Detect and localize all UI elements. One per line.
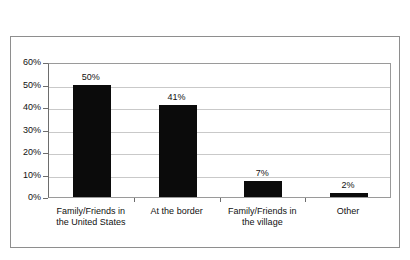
bar-value-label: 41% bbox=[147, 93, 207, 102]
x-axis-tick bbox=[220, 198, 221, 202]
x-axis-category-line: Family/Friends in bbox=[220, 206, 306, 217]
x-axis-category-line: the village bbox=[220, 217, 306, 228]
y-axis-label: 20% bbox=[11, 148, 41, 157]
y-axis-tick bbox=[43, 86, 48, 87]
y-axis-label: 0% bbox=[11, 193, 41, 202]
y-axis-label: 10% bbox=[11, 171, 41, 180]
y-axis-tick bbox=[43, 131, 48, 132]
x-axis-category-line: At the border bbox=[134, 206, 220, 217]
y-axis-label: 40% bbox=[11, 103, 41, 112]
x-axis-tick bbox=[134, 198, 135, 202]
caption-remnant bbox=[0, 0, 410, 12]
y-axis-tick bbox=[43, 198, 48, 199]
x-axis-category-label: Other bbox=[305, 206, 391, 217]
y-axis-label: 50% bbox=[11, 81, 41, 90]
x-axis-category-label: At the border bbox=[134, 206, 220, 217]
bar-value-label: 2% bbox=[318, 181, 378, 190]
x-axis-tick bbox=[305, 198, 306, 202]
bar bbox=[73, 85, 111, 198]
bar-value-label: 50% bbox=[61, 73, 121, 82]
y-axis-label: 30% bbox=[11, 126, 41, 135]
y-axis-tick bbox=[43, 153, 48, 154]
x-axis-category-label: Family/Friends inthe village bbox=[220, 206, 306, 228]
y-axis-tick bbox=[43, 176, 48, 177]
x-axis-category-line: Family/Friends in bbox=[48, 206, 134, 217]
x-axis-category-line: Other bbox=[305, 206, 391, 217]
x-axis-category-line: the United States bbox=[48, 217, 134, 228]
y-axis-label: 60% bbox=[11, 58, 41, 67]
bar bbox=[330, 193, 368, 198]
bar-value-label: 7% bbox=[232, 169, 292, 178]
y-axis-tick bbox=[43, 108, 48, 109]
chart-figure-frame: 60%50%40%30%20%10%0%50%Family/Friends in… bbox=[10, 36, 400, 248]
bar bbox=[159, 105, 197, 197]
y-axis-tick bbox=[43, 63, 48, 64]
x-axis-category-label: Family/Friends inthe United States bbox=[48, 206, 134, 228]
bar bbox=[244, 181, 282, 197]
plot-area bbox=[48, 63, 391, 198]
